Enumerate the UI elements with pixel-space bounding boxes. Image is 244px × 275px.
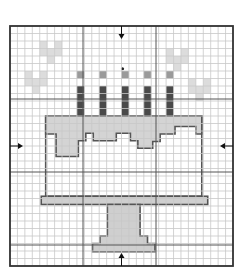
heart-icon (40, 79, 47, 87)
candle-flame (99, 71, 106, 79)
heart-icon (47, 49, 54, 57)
cake-plate (41, 196, 208, 204)
heart-icon (32, 86, 39, 94)
heart-icon (181, 56, 188, 64)
heart-icon (181, 49, 188, 57)
heart-icon (47, 56, 54, 64)
heart-icon (55, 41, 62, 49)
heart-icon (166, 49, 173, 57)
candle-flame (122, 71, 129, 79)
heart-icon (25, 71, 32, 79)
heart-icon (188, 86, 195, 94)
heart-icon (40, 41, 47, 49)
heart-icon (188, 79, 195, 87)
heart-icon (40, 49, 47, 57)
heart-icon (32, 79, 39, 87)
heart-icon (25, 79, 32, 87)
heart-icon (174, 56, 181, 64)
heart-icon (196, 94, 203, 102)
heart-icon (166, 56, 173, 64)
heart-icon (203, 79, 210, 87)
cross-stitch-chart (0, 0, 244, 275)
heart-icon (196, 86, 203, 94)
heart-icon (55, 49, 62, 57)
heart-icon (174, 64, 181, 72)
heart-icon (40, 71, 47, 79)
candle-flame (144, 71, 151, 79)
heart-icon (203, 86, 210, 94)
candle-flame (166, 71, 173, 79)
